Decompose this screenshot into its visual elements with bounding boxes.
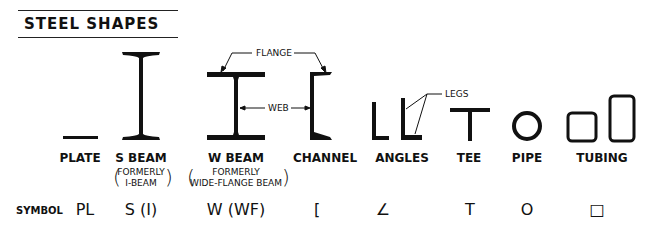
pipe-shape-icon (514, 113, 540, 139)
label-tee: TEE (457, 151, 482, 165)
label-pipe: PIPE (512, 151, 542, 165)
angles-shape-icon (372, 98, 422, 140)
s-beam-note-paren-right: ) (165, 165, 173, 189)
web-callout-label: WEB (266, 103, 291, 113)
shapes-diagram (0, 0, 650, 236)
w-beam-note-paren-right: ) (282, 165, 290, 189)
tee-shape-icon (450, 108, 490, 141)
label-angles: ANGLES (375, 151, 429, 165)
w-beam-shape-icon (207, 72, 265, 140)
tubing-shape-icon (568, 96, 634, 141)
symbol-tee: T (465, 200, 475, 219)
s-beam-note-line2: I-BEAM (125, 178, 156, 189)
symbol-plate: PL (76, 200, 95, 219)
label-plate: PLATE (59, 151, 100, 165)
symbol-row-label: SYMBOL (16, 205, 63, 216)
symbol-s-beam: S (I) (125, 200, 157, 219)
flange-callout-label: FLANGE (254, 48, 294, 58)
label-channel: CHANNEL (293, 151, 357, 165)
legs-callout-label: LEGS (443, 89, 470, 99)
label-w-beam: W BEAM (208, 151, 264, 165)
symbol-angles: ∠ (376, 200, 390, 219)
s-beam-note-line1: FORMERLY (117, 167, 165, 178)
plate-shape-icon (63, 136, 98, 139)
symbol-pipe: O (521, 200, 534, 219)
symbol-channel: [ (314, 200, 320, 219)
channel-shape-icon (310, 72, 332, 140)
legs-callout-lines (406, 94, 442, 134)
symbol-w-beam: W (WF) (207, 200, 265, 219)
label-s-beam: S BEAM (115, 151, 166, 165)
s-beam-shape-icon (122, 52, 160, 140)
w-beam-note-line2: WIDE-FLANGE BEAM (190, 178, 282, 189)
symbol-tubing: □ (589, 200, 604, 219)
w-beam-note-line1: FORMERLY (212, 167, 260, 178)
label-tubing: TUBING (576, 151, 627, 165)
